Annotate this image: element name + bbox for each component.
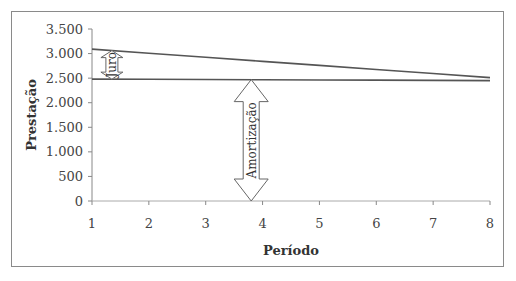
x-tick-label: 8 xyxy=(486,216,494,231)
series-lines xyxy=(92,49,490,80)
x-tick-label: 3 xyxy=(202,216,210,231)
series-line-amortização xyxy=(92,79,490,80)
x-tick-label: 2 xyxy=(145,216,153,231)
y-tick-label: 1.500 xyxy=(46,120,83,135)
y-tick-label: 1.000 xyxy=(46,144,83,159)
y-tick-label: 3.000 xyxy=(46,46,83,61)
annotation-label-amortização: Amortização xyxy=(245,102,259,179)
y-tick-label: 2.500 xyxy=(46,71,83,86)
annotation-label-juro: Juro xyxy=(105,52,119,80)
x-tick-label: 5 xyxy=(315,216,323,231)
line-chart: 05001.0001.5002.0002.5003.0003.500123456… xyxy=(0,0,516,281)
annotations: JuroAmortização xyxy=(101,51,268,201)
y-tick-label: 0 xyxy=(75,194,83,209)
y-tick-label: 3.500 xyxy=(46,22,83,37)
x-axis-title: Período xyxy=(263,243,319,258)
x-tick-label: 6 xyxy=(372,216,380,231)
series-line-prestação xyxy=(92,49,490,78)
x-tick-label: 7 xyxy=(429,216,437,231)
x-tick-label: 1 xyxy=(88,216,96,231)
x-tick-label: 4 xyxy=(258,216,266,231)
y-tick-label: 500 xyxy=(58,169,83,184)
y-tick-label: 2.000 xyxy=(46,95,83,110)
y-axis-title: Prestação xyxy=(24,79,39,151)
